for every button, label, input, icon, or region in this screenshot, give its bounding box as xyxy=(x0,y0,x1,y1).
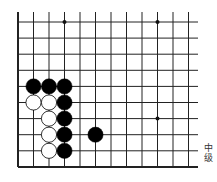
black-stone[interactable] xyxy=(57,111,72,126)
caption-line-1: 中 xyxy=(204,143,217,153)
white-stone[interactable] xyxy=(41,95,56,110)
go-board[interactable] xyxy=(0,0,217,182)
black-stone[interactable] xyxy=(88,127,103,142)
black-stone[interactable] xyxy=(57,143,72,158)
star-point xyxy=(63,20,67,24)
black-stone[interactable] xyxy=(57,95,72,110)
white-stone[interactable] xyxy=(41,111,56,126)
star-point xyxy=(156,117,160,121)
difficulty-caption: 中 级 xyxy=(204,143,217,163)
black-stone[interactable] xyxy=(41,79,56,94)
star-point xyxy=(156,20,160,24)
white-stone[interactable] xyxy=(41,143,56,158)
black-stone[interactable] xyxy=(57,79,72,94)
black-stone[interactable] xyxy=(26,79,41,94)
black-stone[interactable] xyxy=(57,127,72,142)
caption-line-2: 级 xyxy=(204,153,217,163)
white-stone[interactable] xyxy=(26,95,41,110)
white-stone[interactable] xyxy=(41,127,56,142)
